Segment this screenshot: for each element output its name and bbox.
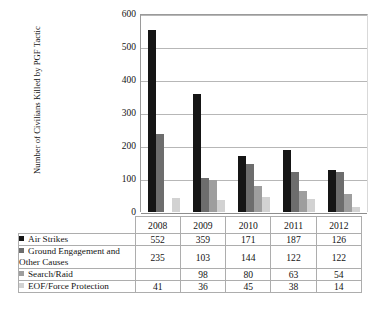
bar-chart: Number of Civilians Killed by PGF Tactic… xyxy=(0,0,380,216)
table-cell: 122 xyxy=(271,246,316,269)
table-cell: 14 xyxy=(316,281,361,293)
bar-search-raid-2009 xyxy=(209,180,217,212)
table-cell: 126 xyxy=(316,234,361,246)
bar-groups xyxy=(141,15,367,212)
table-cell: 144 xyxy=(226,246,271,269)
bar-air-strikes-2010 xyxy=(238,156,246,212)
table-cell: 359 xyxy=(180,234,225,246)
y-axis-tick: 200 xyxy=(104,141,136,151)
bar-eof-force-protection-2008 xyxy=(172,198,180,212)
y-axis-tick: 400 xyxy=(104,75,136,85)
bar-eof-force-protection-2011 xyxy=(307,199,315,212)
bar-group-2010 xyxy=(231,15,276,212)
table-cell: 54 xyxy=(316,269,361,281)
legend-swatch-icon xyxy=(19,236,24,241)
table-column-header-2008: 2008 xyxy=(135,217,180,234)
table-row-label: Ground Engagement and Other Causes xyxy=(19,246,136,269)
y-axis-title: Number of Civilians Killed by PGF Tactic xyxy=(32,0,42,200)
table-column-header-2010: 2010 xyxy=(226,217,271,234)
bar-search-raid-2010 xyxy=(254,186,262,212)
bar-air-strikes-2011 xyxy=(283,150,291,212)
legend-swatch-icon xyxy=(19,248,24,253)
bar-eof-force-protection-2012 xyxy=(352,207,360,212)
table-row-label: EOF/Force Protection xyxy=(19,281,136,293)
table-cell: 45 xyxy=(226,281,271,293)
table-cell: 63 xyxy=(271,269,316,281)
plot-area xyxy=(140,14,368,212)
y-axis-tick-labels: 6005004003002001000 xyxy=(104,9,136,213)
table-cell: 98 xyxy=(180,269,225,281)
bar-air-strikes-2008 xyxy=(148,30,156,212)
bar-search-raid-2011 xyxy=(299,191,307,212)
table-row: Search/Raid98806354 xyxy=(19,269,362,281)
table-cell xyxy=(135,269,180,281)
table-row-label: Search/Raid xyxy=(19,269,136,281)
table-cell: 122 xyxy=(316,246,361,269)
gridline xyxy=(141,213,367,214)
bar-air-strikes-2012 xyxy=(328,170,336,212)
bar-air-strikes-2009 xyxy=(193,94,201,212)
table-corner-cell xyxy=(19,217,136,234)
table-cell: 80 xyxy=(226,269,271,281)
bar-ground-engagement-and-other-causes-2012 xyxy=(336,172,344,212)
legend-swatch-icon xyxy=(19,271,24,276)
bar-ground-engagement-and-other-causes-2009 xyxy=(201,178,209,212)
legend-label: Search/Raid xyxy=(28,269,73,279)
table-row: EOF/Force Protection4136453814 xyxy=(19,281,362,293)
legend-label: Ground Engagement and Other Causes xyxy=(19,246,120,267)
table-row: Air Strikes552359171187126 xyxy=(19,234,362,246)
table-cell: 552 xyxy=(135,234,180,246)
y-axis-tick: 300 xyxy=(104,108,136,118)
table-column-header-2009: 2009 xyxy=(180,217,225,234)
bar-group-2011 xyxy=(277,15,322,212)
table-column-header-2011: 2011 xyxy=(271,217,316,234)
bar-ground-engagement-and-other-causes-2010 xyxy=(246,164,254,212)
table-cell: 36 xyxy=(180,281,225,293)
table-cell: 171 xyxy=(226,234,271,246)
y-axis-tick: 500 xyxy=(104,42,136,52)
legend-label: Air Strikes xyxy=(28,234,68,244)
table-cell: 41 xyxy=(135,281,180,293)
bar-ground-engagement-and-other-causes-2008 xyxy=(156,134,164,212)
table-cell: 38 xyxy=(271,281,316,293)
data-table: 20082009201020112012 Air Strikes55235917… xyxy=(18,216,362,293)
bar-group-2008 xyxy=(141,15,186,212)
bar-group-2009 xyxy=(186,15,231,212)
table-row-label: Air Strikes xyxy=(19,234,136,246)
bar-search-raid-2012 xyxy=(344,194,352,212)
y-axis-tick: 100 xyxy=(104,174,136,184)
y-axis-tick: 600 xyxy=(104,9,136,19)
table-header-row: 20082009201020112012 xyxy=(19,217,362,234)
table-column-header-2012: 2012 xyxy=(316,217,361,234)
bar-group-2012 xyxy=(322,15,367,212)
table-cell: 235 xyxy=(135,246,180,269)
legend-swatch-icon xyxy=(19,283,24,288)
chart-figure: Number of Civilians Killed by PGF Tactic… xyxy=(0,0,380,323)
legend-label: EOF/Force Protection xyxy=(28,281,109,291)
table-row: Ground Engagement and Other Causes235103… xyxy=(19,246,362,269)
bar-eof-force-protection-2010 xyxy=(262,197,270,212)
bar-ground-engagement-and-other-causes-2011 xyxy=(291,172,299,212)
table-body: Air Strikes552359171187126Ground Engagem… xyxy=(19,234,362,293)
table-cell: 187 xyxy=(271,234,316,246)
table-cell: 103 xyxy=(180,246,225,269)
bar-eof-force-protection-2009 xyxy=(217,200,225,212)
